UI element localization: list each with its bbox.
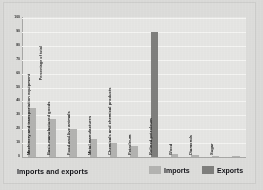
category-label: Basic manufactured goods (47, 101, 51, 155)
gridline (22, 18, 246, 19)
category-label: Metal manufactures (88, 116, 92, 155)
legend-item-imports: Imports (149, 166, 190, 174)
category-label: Chemicals and chemical products (108, 87, 112, 155)
chart-title: Imports and exports (17, 167, 88, 176)
category-label: Machinery and transportation equipment (26, 74, 30, 155)
y-axis-tick-label: 10 (16, 141, 20, 144)
legend-item-exports: Exports (202, 166, 243, 174)
y-axis-tick-label: 100 (14, 16, 20, 19)
y-axis-title: Percentage of total (39, 28, 43, 98)
category-label: Sugar (210, 143, 214, 155)
gridline (22, 88, 246, 89)
y-axis-tick-label: 60 (16, 72, 20, 75)
legend-swatch-exports (202, 166, 214, 174)
category-label: Food and live animals (67, 111, 71, 155)
y-axis-tick-label: 30 (16, 114, 20, 117)
category-label: Petroleum (128, 135, 132, 155)
y-axis-tick-label: 80 (16, 44, 20, 47)
category-label: Wood (169, 144, 173, 156)
chart-figure: 0102030405060708090100 Machinery and tra… (0, 0, 263, 190)
gridline (22, 74, 246, 75)
bar-imports-8 (191, 155, 199, 157)
y-axis-tick-label: 20 (16, 127, 20, 130)
gridline (22, 101, 246, 102)
bar-imports-9 (212, 156, 220, 157)
chart-footer: Imports and exports Imports Exports (3, 162, 256, 184)
gridline (22, 46, 246, 47)
plot-wrapper: 0102030405060708090100 Machinery and tra… (22, 17, 246, 158)
bar-imports-10 (232, 156, 240, 157)
y-axis-tick-label: 90 (16, 30, 20, 33)
y-axis-tick-label: 40 (16, 100, 20, 103)
y-axis-tick-label: 70 (16, 58, 20, 61)
y-axis-tick-label: 0 (18, 155, 20, 158)
category-label: Diamonds (189, 135, 193, 155)
legend-label-imports: Imports (164, 167, 190, 174)
category-label: Refined petroleum (149, 118, 153, 155)
y-axis-tick-label: 50 (16, 86, 20, 89)
gridline (22, 60, 246, 61)
gridline (22, 115, 246, 116)
gridline (22, 32, 246, 33)
legend-label-exports: Exports (217, 167, 243, 174)
legend-swatch-imports (149, 166, 161, 174)
